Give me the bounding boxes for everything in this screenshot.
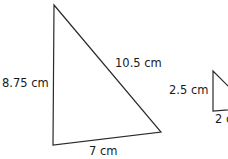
small-left-side-label: 2.5 cm <box>169 85 208 97</box>
large-left-side-label: 8.75 cm <box>2 78 49 90</box>
small-bottom-side-label: 2 cm <box>215 114 228 126</box>
small-triangle <box>213 71 228 111</box>
large-hypotenuse-label: 10.5 cm <box>115 58 162 70</box>
large-triangle <box>53 5 161 145</box>
large-bottom-side-label: 7 cm <box>89 146 118 158</box>
